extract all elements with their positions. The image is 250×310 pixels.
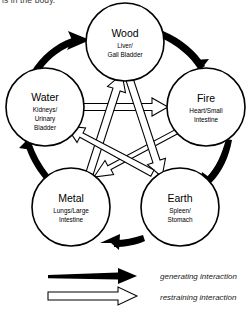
node-wood[interactable]: Wood Liver/ Gall Bladder: [86, 3, 164, 81]
legend-restraining-label: restraining interaction: [160, 293, 237, 302]
generating-arrow-earth-to-metal: [100, 234, 145, 250]
legend: generating interaction restraining inter…: [48, 268, 237, 305]
node-fire-organ-line-2: Intestine: [194, 116, 219, 123]
node-metal-organ-line-2: Intestine: [59, 216, 84, 223]
node-wood-organ-line-2: Gall Bladder: [107, 51, 143, 58]
node-fire-element-label: Fire: [197, 92, 215, 104]
node-earth-organ-line-1: Spleen/: [169, 207, 191, 215]
restraining-interaction-arrows: [66, 74, 180, 177]
node-metal[interactable]: Metal Lungs/Large Intestine: [32, 168, 110, 246]
node-wood-element-label: Wood: [111, 27, 138, 39]
restraining-arrow-water-to-fire: [71, 98, 168, 116]
five-element-diagram-svg: Wood Liver/ Gall Bladder Fire Heart/Smal…: [0, 0, 250, 310]
node-water-element-label: Water: [31, 91, 59, 103]
node-water-organ-line-1: Kidneys/: [33, 106, 58, 114]
legend-restraining-arrow-icon: [48, 287, 137, 305]
node-fire-organ-line-1: Heart/Small: [189, 107, 222, 114]
element-nodes: Wood Liver/ Gall Bladder Fire Heart/Smal…: [6, 3, 245, 246]
diagram-canvas: is in the body.: [0, 0, 250, 310]
legend-restraining-row: restraining interaction: [48, 287, 237, 305]
node-water-organ-line-2: Urinary: [35, 115, 56, 123]
node-earth[interactable]: Earth Spleen/ Stomach: [141, 168, 219, 246]
node-water-organ-line-3: Bladder: [34, 124, 57, 131]
node-metal-organ-line-1: Lungs/Large: [53, 207, 89, 215]
legend-generating-row: generating interaction: [48, 268, 237, 284]
legend-generating-label: generating interaction: [160, 272, 237, 281]
node-earth-element-label: Earth: [167, 192, 192, 204]
node-metal-element-label: Metal: [58, 192, 84, 204]
node-fire[interactable]: Fire Heart/Small Intestine: [167, 68, 245, 146]
node-earth-organ-line-2: Stomach: [167, 216, 193, 223]
node-water[interactable]: Water Kidneys/ Urinary Bladder: [6, 68, 84, 146]
legend-generating-arrow-icon: [48, 268, 137, 284]
node-wood-organ-line-1: Liver/: [117, 42, 133, 49]
